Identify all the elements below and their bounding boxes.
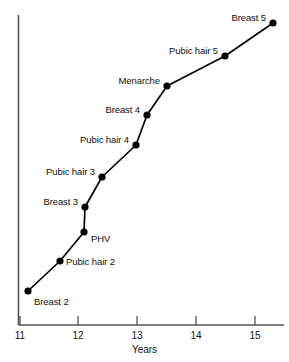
- data-point-menarche[interactable]: [163, 82, 170, 89]
- x-tick-label-15: 15: [243, 330, 267, 341]
- point-label-pubic-hair-5: Pubic hair 5: [0, 45, 218, 56]
- x-tick-label-12: 12: [66, 330, 90, 341]
- data-point-phv[interactable]: [80, 228, 87, 235]
- data-line: [28, 23, 273, 291]
- data-point-breast-3[interactable]: [81, 203, 88, 210]
- point-label-pubic-hair-2: Pubic hair 2: [66, 256, 115, 267]
- data-point-breast-4[interactable]: [143, 111, 150, 118]
- pubertal-sequence-chart: Breast 2 Pubic hair 2 PHV Breast 3 Pubic…: [0, 0, 289, 362]
- x-axis-ticks: [20, 316, 255, 325]
- x-tick-label-14: 14: [184, 330, 208, 341]
- data-point-pubic-hair-5[interactable]: [221, 52, 228, 59]
- point-label-breast-5: Breast 5: [0, 12, 266, 23]
- x-axis-title: Years: [0, 344, 289, 355]
- point-label-phv: PHV: [91, 233, 110, 244]
- data-point-pubic-hair-2[interactable]: [56, 257, 63, 264]
- data-point-markers: [24, 19, 276, 294]
- x-tick-label-11: 11: [8, 330, 32, 341]
- point-label-pubic-hair-4: Pubic hair 4: [0, 134, 129, 145]
- data-point-pubic-hair-4[interactable]: [132, 141, 139, 148]
- point-label-breast-2: Breast 2: [34, 296, 69, 307]
- point-label-pubic-hair-3: Pubic hair 3: [0, 166, 95, 177]
- x-tick-label-13: 13: [125, 330, 149, 341]
- data-point-breast-5[interactable]: [269, 19, 276, 26]
- point-label-breast-3: Breast 3: [0, 196, 78, 207]
- data-point-pubic-hair-3[interactable]: [98, 173, 105, 180]
- point-label-breast-4: Breast 4: [0, 104, 140, 115]
- data-point-breast-2[interactable]: [24, 287, 31, 294]
- point-label-menarche: Menarche: [0, 75, 160, 86]
